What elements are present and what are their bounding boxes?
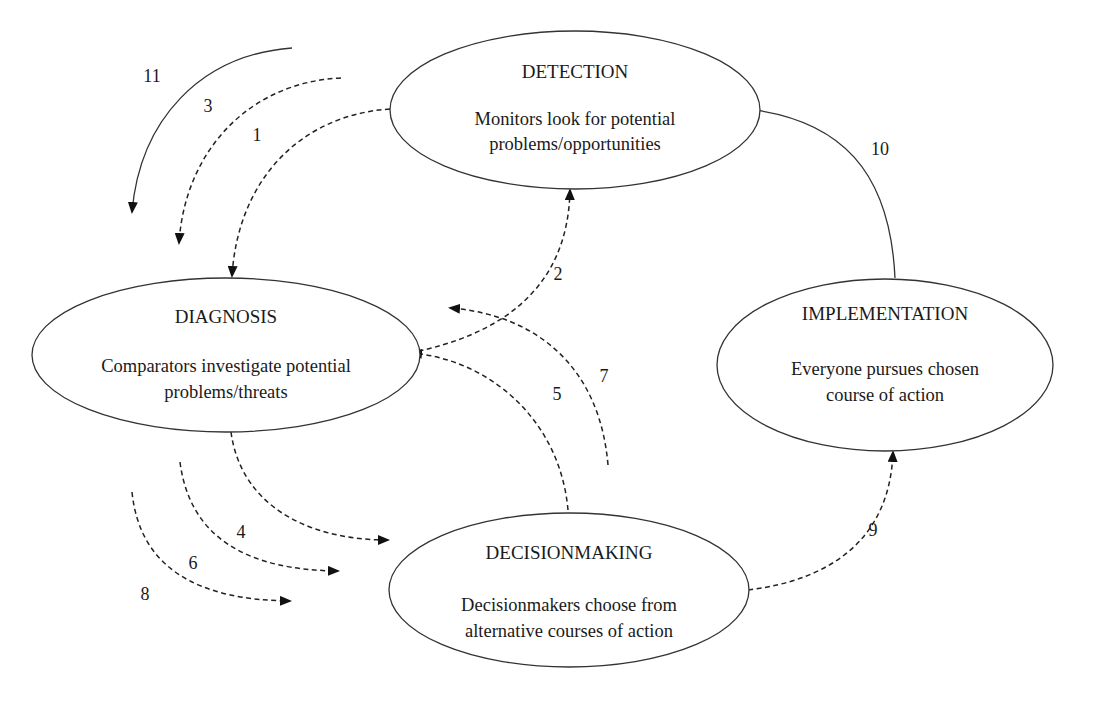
node-diagnosis-title: DIAGNOSIS xyxy=(175,306,277,327)
arrow-label-2: 2 xyxy=(554,264,563,284)
arrow-label-7: 7 xyxy=(600,366,609,386)
node-diagnosis: DIAGNOSIS Comparators investigate potent… xyxy=(32,278,420,432)
arrow-label-10: 10 xyxy=(871,139,889,159)
node-implementation-title: IMPLEMENTATION xyxy=(802,303,969,324)
node-detection-title: DETECTION xyxy=(522,61,629,82)
arrow-7 xyxy=(450,308,608,465)
arrow-8 xyxy=(132,492,290,601)
node-decisionmaking-desc-2: alternative courses of action xyxy=(465,621,673,641)
node-implementation: IMPLEMENTATION Everyone pursues chosen c… xyxy=(717,279,1053,451)
arrow-label-11: 11 xyxy=(143,66,160,86)
arrow-label-4: 4 xyxy=(237,522,246,542)
node-implementation-desc-1: Everyone pursues chosen xyxy=(791,359,979,379)
arrow-label-1: 1 xyxy=(253,125,262,145)
arrow-label-3: 3 xyxy=(204,96,213,116)
arrow-4 xyxy=(231,432,388,540)
node-decisionmaking-title: DECISIONMAKING xyxy=(486,542,653,563)
arrow-label-6: 6 xyxy=(189,553,198,573)
arrow-6 xyxy=(180,462,338,571)
node-detection-desc-2: problems/opportunities xyxy=(489,134,661,154)
arrow-label-9: 9 xyxy=(869,520,878,540)
arrow-label-8: 8 xyxy=(141,584,150,604)
arrow-label-5: 5 xyxy=(553,384,562,404)
node-diagnosis-desc-2: problems/threats xyxy=(164,382,287,402)
process-cycle-diagram: DETECTION Monitors look for potential pr… xyxy=(0,0,1120,701)
node-implementation-desc-2: course of action xyxy=(826,385,944,405)
node-decisionmaking: DECISIONMAKING Decisionmakers choose fro… xyxy=(389,513,749,667)
node-diagnosis-desc-1: Comparators investigate potential xyxy=(101,356,351,376)
node-detection-desc-1: Monitors look for potential xyxy=(475,109,676,129)
node-detection: DETECTION Monitors look for potential pr… xyxy=(390,31,760,189)
arrow-2 xyxy=(410,190,570,353)
arrow-10 xyxy=(748,109,895,278)
node-decisionmaking-desc-1: Decisionmakers choose from xyxy=(461,595,677,615)
arrow-5 xyxy=(412,353,568,510)
